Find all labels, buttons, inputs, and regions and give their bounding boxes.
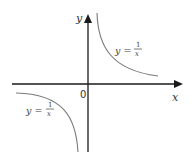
equation-label-third-quadrant: y = 1 x [25,101,54,118]
svg-text:x: x [47,110,51,118]
third-quadrant-curve [16,93,78,152]
x-axis-arrow-icon [174,80,183,88]
x-axis-label: x [172,91,179,104]
x-axis [12,80,183,88]
equation-label-first-quadrant: y = 1 x [114,41,142,58]
y-axis-label: y [75,12,83,25]
svg-text:x: x [135,50,139,58]
hyperbola-diagram: y x 0 y = 1 x y = 1 x [0,0,192,152]
svg-text:y =: y = [25,105,42,116]
svg-text:y =: y = [114,45,131,56]
origin-label: 0 [80,89,86,100]
y-axis-arrow-icon [84,14,92,23]
svg-text:1: 1 [48,101,52,109]
y-axis [84,14,92,152]
svg-text:1: 1 [136,41,140,49]
